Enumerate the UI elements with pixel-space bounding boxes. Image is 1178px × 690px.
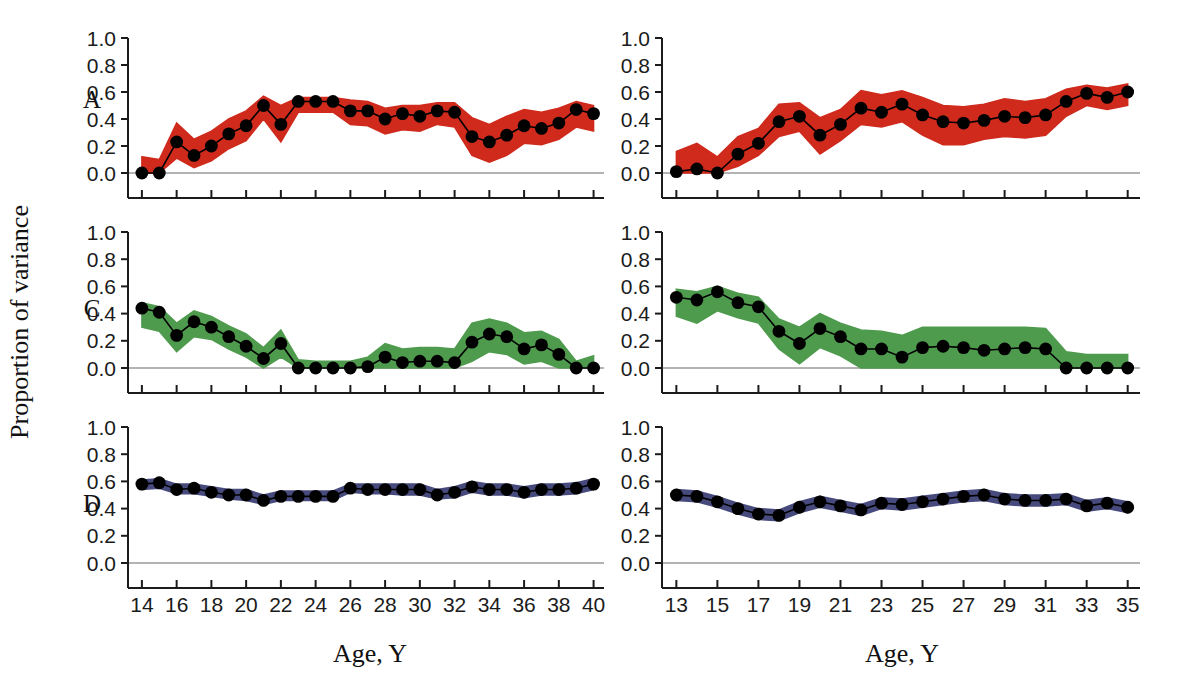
y-axis-tick-label: 1.0 bbox=[87, 416, 116, 439]
data-point bbox=[274, 337, 287, 350]
data-point bbox=[793, 501, 806, 514]
x-axis-tick-label: 38 bbox=[547, 593, 570, 616]
data-point bbox=[1060, 362, 1073, 375]
data-point bbox=[466, 130, 479, 143]
panel-d-left: 0.00.20.40.60.81.01416182022242628303234… bbox=[87, 416, 605, 617]
data-point bbox=[135, 478, 148, 491]
data-point bbox=[1101, 91, 1114, 104]
data-point bbox=[957, 117, 970, 130]
data-point bbox=[518, 486, 531, 499]
data-point bbox=[875, 343, 888, 356]
data-point bbox=[670, 489, 683, 502]
data-point bbox=[222, 330, 235, 343]
y-axis-tick-label: 0.4 bbox=[621, 497, 651, 520]
panel-label-d: D bbox=[83, 490, 101, 517]
data-point bbox=[937, 115, 950, 128]
data-point bbox=[153, 167, 166, 180]
data-point bbox=[483, 328, 496, 341]
data-point bbox=[1101, 362, 1114, 375]
y-axis-tick-label: 0.8 bbox=[621, 54, 650, 77]
panel-label-c: C bbox=[84, 295, 101, 322]
data-point bbox=[855, 343, 868, 356]
x-axis-tick-label: 28 bbox=[373, 593, 396, 616]
y-axis-tick-label: 0.0 bbox=[87, 357, 116, 380]
y-axis-tick-label: 1.0 bbox=[621, 221, 650, 244]
data-point bbox=[587, 478, 600, 491]
data-point bbox=[957, 490, 970, 503]
data-point bbox=[518, 119, 531, 132]
panel-label-a: A bbox=[83, 86, 101, 113]
data-point bbox=[1101, 497, 1114, 510]
data-point bbox=[153, 476, 166, 489]
data-point bbox=[188, 149, 201, 162]
data-point bbox=[916, 341, 929, 354]
x-axis-tick-label: 22 bbox=[269, 593, 292, 616]
data-point bbox=[257, 99, 270, 112]
confidence-band bbox=[142, 303, 594, 368]
y-axis-tick-label: 0.6 bbox=[621, 81, 650, 104]
data-point bbox=[570, 103, 583, 116]
data-point bbox=[535, 338, 548, 351]
data-point bbox=[379, 483, 392, 496]
y-axis-tick-label: 1.0 bbox=[621, 27, 650, 50]
y-axis-tick-label: 0.2 bbox=[621, 135, 650, 158]
data-point bbox=[937, 340, 950, 353]
data-point bbox=[978, 489, 991, 502]
data-point bbox=[240, 489, 253, 502]
data-point bbox=[752, 300, 765, 313]
x-axis-tick-label: 15 bbox=[706, 593, 729, 616]
data-point bbox=[896, 498, 909, 511]
x-axis-tick-label: 31 bbox=[1034, 593, 1057, 616]
data-point bbox=[1080, 499, 1093, 512]
data-point bbox=[1121, 86, 1134, 99]
data-point bbox=[361, 360, 374, 373]
data-point bbox=[431, 489, 444, 502]
data-point bbox=[1121, 362, 1134, 375]
data-point bbox=[690, 294, 703, 307]
y-axis-tick-label: 0.0 bbox=[87, 552, 116, 575]
data-point bbox=[240, 119, 253, 132]
data-point bbox=[257, 494, 270, 507]
data-point bbox=[773, 509, 786, 522]
data-point bbox=[875, 106, 888, 119]
x-axis-tick-label: 16 bbox=[165, 593, 188, 616]
data-point bbox=[814, 495, 827, 508]
data-point bbox=[222, 489, 235, 502]
x-axis-tick-label: 19 bbox=[788, 593, 811, 616]
y-axis-tick-label: 1.0 bbox=[621, 416, 650, 439]
data-point bbox=[396, 483, 409, 496]
y-axis-tick-label: 0.8 bbox=[87, 248, 116, 271]
y-axis-tick-label: 0.8 bbox=[621, 248, 650, 271]
data-point bbox=[413, 110, 426, 123]
data-point bbox=[773, 115, 786, 128]
data-point bbox=[535, 122, 548, 135]
data-point bbox=[773, 325, 786, 338]
data-point bbox=[170, 483, 183, 496]
data-point bbox=[752, 137, 765, 150]
x-axis-tick-label: 21 bbox=[829, 593, 852, 616]
data-point bbox=[570, 482, 583, 495]
data-point bbox=[998, 493, 1011, 506]
x-axis-title-right: Age, Y bbox=[865, 639, 939, 668]
data-point bbox=[834, 118, 847, 131]
data-point bbox=[396, 107, 409, 120]
data-point bbox=[896, 351, 909, 364]
data-point bbox=[552, 117, 565, 130]
data-point bbox=[274, 490, 287, 503]
data-point bbox=[1060, 493, 1073, 506]
data-point bbox=[552, 348, 565, 361]
x-axis-tick-label: 25 bbox=[911, 593, 934, 616]
data-point bbox=[135, 302, 148, 315]
data-point bbox=[188, 315, 201, 328]
data-point bbox=[552, 483, 565, 496]
data-point bbox=[240, 340, 253, 353]
data-point bbox=[855, 504, 868, 517]
y-axis-tick-label: 0.0 bbox=[87, 162, 116, 185]
y-axis-tick-label: 0.2 bbox=[87, 524, 116, 547]
data-point bbox=[135, 167, 148, 180]
data-point bbox=[188, 482, 201, 495]
data-point bbox=[483, 136, 496, 149]
figure-canvas: 0.00.20.40.60.81.00.00.20.40.60.81.00.00… bbox=[0, 0, 1178, 690]
data-point bbox=[978, 114, 991, 127]
confidence-band bbox=[676, 84, 1127, 173]
